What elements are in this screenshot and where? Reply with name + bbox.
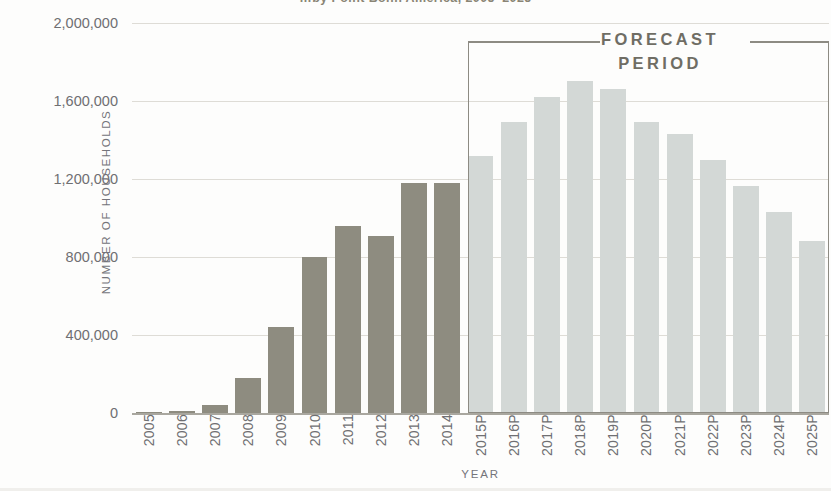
forecast-label-line2: PERIOD	[618, 54, 702, 72]
x-tick-label-2008: 2008	[240, 414, 256, 446]
bar-2022P[interactable]	[700, 160, 726, 414]
bar-2005[interactable]	[136, 412, 162, 413]
x-tick-label-2023P: 2023P	[738, 414, 754, 456]
bar-2014[interactable]	[434, 183, 460, 413]
x-axis-title: YEAR	[132, 468, 829, 480]
x-tick-label-2017P: 2017P	[539, 414, 555, 456]
bar-2012[interactable]	[368, 236, 394, 413]
y-axis-title: NUMBER OF HOUSEHOLDS	[100, 82, 112, 322]
bar-2017P[interactable]	[534, 97, 560, 413]
x-tick-label-2006: 2006	[174, 414, 190, 446]
x-tick-label-2011: 2011	[340, 414, 356, 445]
bar-2021P[interactable]	[667, 134, 693, 413]
y-tick-label: 2,000,000	[8, 15, 118, 31]
x-tick-label-2024P: 2024P	[771, 414, 787, 456]
bar-2011[interactable]	[335, 226, 361, 413]
x-tick-label-2012: 2012	[373, 414, 389, 446]
bar-2015P[interactable]	[468, 156, 494, 413]
x-tick-label-2019P: 2019P	[605, 414, 621, 456]
x-tick-label-2015P: 2015P	[473, 414, 489, 456]
bar-2010[interactable]	[302, 257, 328, 413]
plot-area	[132, 23, 829, 413]
x-tick-label-2020P: 2020P	[638, 414, 654, 456]
bar-2007[interactable]	[202, 405, 228, 413]
bar-2013[interactable]	[401, 183, 427, 413]
x-tick-label-2016P: 2016P	[506, 414, 522, 456]
x-tick-label-2018P: 2018P	[572, 414, 588, 456]
bar-2016P[interactable]	[501, 122, 527, 413]
chart-figure: …by Point Bonn America, 2005–2025 2,000,…	[0, 0, 831, 491]
x-tick-label-2009: 2009	[273, 414, 289, 446]
x-tick-label-2014: 2014	[439, 414, 455, 446]
bar-2024P[interactable]	[766, 212, 792, 413]
y-tick-label: 400,000	[8, 327, 118, 343]
x-tick-label-2007: 2007	[207, 414, 223, 446]
bar-2008[interactable]	[235, 378, 261, 413]
bar-2009[interactable]	[268, 327, 294, 413]
x-tick-label-2005: 2005	[141, 414, 157, 446]
bar-2020P[interactable]	[634, 122, 660, 413]
gridline	[132, 23, 829, 24]
forecast-label-line1: FORECAST	[601, 30, 719, 48]
bar-2025P[interactable]	[799, 241, 825, 413]
x-tick-label-2021P: 2021P	[672, 414, 688, 456]
x-axis-tick-labels: 2005200620072008200920102011201220132014…	[132, 414, 829, 474]
bar-2006[interactable]	[169, 411, 195, 413]
bar-2018P[interactable]	[567, 81, 593, 413]
gridline	[132, 101, 829, 102]
x-tick-label-2010: 2010	[307, 414, 323, 446]
forecast-box-top-right-rule	[750, 41, 829, 43]
x-tick-label-2022P: 2022P	[705, 414, 721, 456]
x-tick-label-2025P: 2025P	[804, 414, 820, 456]
y-tick-label: 0	[8, 405, 118, 421]
bar-2023P[interactable]	[733, 186, 759, 413]
bar-2019P[interactable]	[600, 89, 626, 413]
chart-title: …by Point Bonn America, 2005–2025	[0, 0, 831, 5]
forecast-period-label: FORECAST PERIOD	[560, 28, 760, 76]
x-tick-label-2013: 2013	[406, 414, 422, 446]
